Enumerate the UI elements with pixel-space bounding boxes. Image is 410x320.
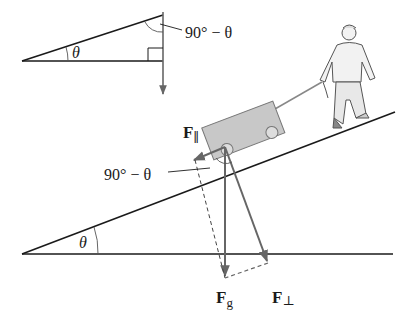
f-parallel-label: F∥ [183, 123, 199, 145]
inset-complement-arc [145, 22, 163, 32]
cart-complement-label: 90° − θ [104, 166, 151, 183]
dashed-projection-perpendicular [225, 263, 268, 278]
cart [199, 92, 288, 161]
rope-tail [323, 82, 328, 98]
incline-theta-label: θ [79, 234, 87, 251]
f-gravity-label: Fg [216, 288, 233, 310]
person-head [342, 26, 356, 40]
inset-theta-label: θ [72, 44, 80, 61]
inset-complement-label: 90° − θ [185, 24, 232, 41]
perpendicular-vector [225, 147, 267, 261]
person-figure [320, 25, 375, 128]
incline-theta-arc [94, 227, 98, 254]
inset-triangle: θ 90° − θ [22, 12, 232, 94]
cart-angle-leader [168, 168, 210, 172]
person-jacket [320, 43, 375, 83]
person-cap [343, 25, 356, 28]
inset-theta-arc [66, 47, 68, 61]
inset-hypotenuse [22, 15, 163, 61]
f-perpendicular-label: F⊥ [272, 288, 295, 308]
right-angle-marker [148, 48, 163, 61]
inclined-plane-diagram: θ 90° − θ θ 90° − θ F∥ Fg [0, 0, 410, 320]
